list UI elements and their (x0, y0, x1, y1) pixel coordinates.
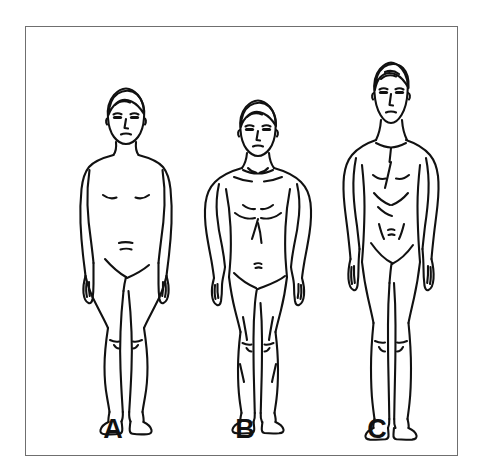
figure-a-endomorph (56, 27, 196, 457)
figure-c-ectomorph (318, 27, 458, 457)
figure-a-drawing (56, 27, 196, 457)
illustration-frame (25, 26, 458, 456)
figure-c-drawing (318, 27, 458, 457)
figure-label-a: A (83, 416, 143, 443)
figure-label-c: C (347, 416, 407, 443)
figure-b-drawing (186, 27, 331, 457)
figure-label-b: B (215, 416, 275, 443)
illustration-page: A B C (0, 0, 481, 476)
figure-b-mesomorph (186, 27, 331, 457)
